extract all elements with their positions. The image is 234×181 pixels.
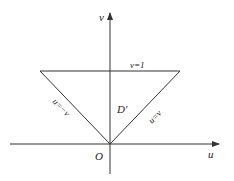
u-axis-label: u xyxy=(208,148,214,160)
v-axis-label: v xyxy=(99,11,104,23)
right-boundary-label: u=v xyxy=(146,108,163,125)
top-boundary-label: v=1 xyxy=(130,60,145,70)
diagram-canvas: v v=1 D′ u=−v u=v O u xyxy=(0,0,234,181)
boundary-left-u-equals-minus-v xyxy=(40,71,110,144)
region-label: D′ xyxy=(116,103,128,115)
diagram-svg: v v=1 D′ u=−v u=v O u xyxy=(0,0,234,181)
origin-label: O xyxy=(95,150,103,162)
left-boundary-label: u=−v xyxy=(51,96,73,118)
